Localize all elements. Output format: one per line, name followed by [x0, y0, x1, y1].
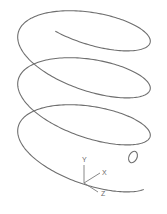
- helix-curve[interactable]: [18, 11, 151, 192]
- x-axis-label: X: [102, 169, 107, 176]
- y-axis-label: Y: [82, 156, 87, 163]
- helix-end-marker[interactable]: [127, 150, 139, 164]
- x-axis-line: [84, 173, 100, 183]
- drawing-canvas: Y X Z: [0, 0, 167, 214]
- z-axis-label: Z: [101, 190, 106, 197]
- ucs-axis-icon: Y X Z: [82, 156, 107, 197]
